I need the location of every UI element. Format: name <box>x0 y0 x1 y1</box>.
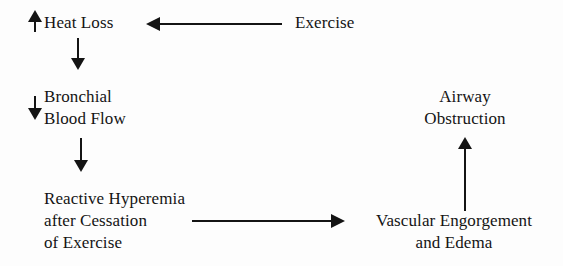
decrease-marker-bronchial-blood-flow <box>28 96 42 122</box>
diagram-canvas: Heat Loss Exercise Bronchial Blood Flow … <box>0 0 563 266</box>
node-heat-loss: Heat Loss <box>44 12 154 34</box>
increase-marker-heat-loss <box>28 10 42 32</box>
node-vascular-engorgement: Vascular Engorgement and Edema <box>352 210 556 254</box>
node-bronchial-blood-flow: Bronchial Blood Flow <box>44 86 184 130</box>
node-exercise: Exercise <box>295 12 405 34</box>
node-airway-obstruction: Airway Obstruction <box>382 86 548 130</box>
